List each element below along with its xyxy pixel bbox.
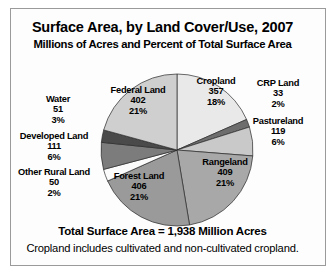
label-pastureland: Pastureland 119 6% xyxy=(243,116,313,147)
label-rangeland: Rangeland 409 21% xyxy=(189,157,261,188)
footer-total: Total Surface Area = 1,938 Million Acres xyxy=(11,225,314,237)
label-water: Water 51 3% xyxy=(29,94,87,125)
label-federal-land: Federal Land 402 21% xyxy=(95,85,181,116)
label-crp-land: CRP Land 33 2% xyxy=(245,78,311,109)
label-other-rural-land: Other Rural Land 50 2% xyxy=(10,167,101,198)
label-cropland: Cropland 357 18% xyxy=(183,76,249,107)
label-developed-land: Developed Land 111 6% xyxy=(11,131,97,162)
footer-note: Cropland includes cultivated and non-cul… xyxy=(11,242,314,254)
chart-frame: Surface Area, by Land Cover/Use, 2007 Mi… xyxy=(10,8,326,266)
label-forest-land: Forest Land 406 21% xyxy=(99,171,179,202)
